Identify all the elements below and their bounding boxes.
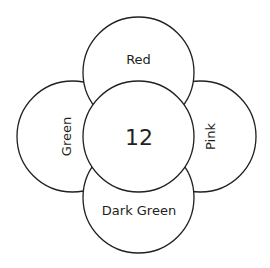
petal-bottom-label: Dark Green (102, 203, 176, 218)
center: 12 (83, 81, 194, 192)
petal-right-label: Pink (203, 123, 218, 150)
petal-left-label: Green (59, 117, 74, 156)
flower-venn-diagram: Green Pink Red Dark Green 12 (0, 0, 270, 268)
center-value: 12 (125, 125, 153, 150)
petal-top-label: Red (126, 52, 151, 67)
